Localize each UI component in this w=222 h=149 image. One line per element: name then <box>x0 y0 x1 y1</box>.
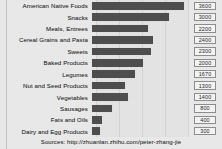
category-label: Snacks <box>0 14 92 21</box>
category-label: Vegetables <box>0 94 92 101</box>
bar-track <box>92 114 184 125</box>
category-label: Sweets <box>0 48 92 55</box>
category-label: Sausages <box>0 105 92 112</box>
bar-track <box>92 80 184 91</box>
category-label: Dairy and Egg Products <box>0 128 92 135</box>
category-label: Legumes <box>0 71 92 78</box>
category-label: Cereal Grains and Pasta <box>0 36 92 43</box>
bar-track <box>92 23 184 34</box>
source-caption: Sources: http://zhuanlan.zhihu.com/peter… <box>0 138 222 146</box>
bar-track <box>92 46 184 57</box>
bar-row: Cereal Grains and Pasta <box>0 34 222 45</box>
bar-row: Vegetables <box>0 91 222 102</box>
bar-rows-container: American Native Foods3600Snacks3000Meals… <box>0 0 222 137</box>
bar <box>92 116 102 124</box>
value-box: 800 <box>194 104 216 112</box>
value-box: 2200 <box>194 24 216 32</box>
bar <box>92 59 143 67</box>
bar <box>92 25 148 33</box>
bar-track <box>92 103 184 114</box>
bar-row: Legumes <box>0 69 222 80</box>
value-box: 300 <box>194 127 216 135</box>
category-label: Nut and Seed Products <box>0 82 92 89</box>
value-box: 3600 <box>194 2 216 10</box>
bar-track <box>92 91 184 102</box>
value-box: 2300 <box>194 47 216 55</box>
bar <box>92 105 112 113</box>
bar <box>92 93 128 101</box>
category-label: Meals, Entrees <box>0 25 92 32</box>
bar-track <box>92 126 184 137</box>
value-box: 3000 <box>194 13 216 21</box>
bar-row: Baked Products <box>0 57 222 68</box>
bar-row: American Native Foods <box>0 0 222 11</box>
bar <box>92 82 125 90</box>
bar-row: Fats and Oils <box>0 114 222 125</box>
value-box: 400 <box>194 116 216 124</box>
bar-row: Nut and Seed Products <box>0 80 222 91</box>
value-box: 2000 <box>194 59 216 67</box>
bar <box>92 13 169 21</box>
bar-chart-figure: American Native Foods3600Snacks3000Meals… <box>0 0 222 149</box>
bar-track <box>92 0 184 11</box>
bar <box>92 127 100 135</box>
bar-row: Sausages <box>0 103 222 114</box>
bar-track <box>92 34 184 45</box>
category-label: American Native Foods <box>0 2 92 9</box>
category-label: Baked Products <box>0 59 92 66</box>
value-box: 1300 <box>194 81 216 89</box>
bar <box>92 36 153 44</box>
bar-row: Sweets <box>0 46 222 57</box>
bar-track <box>92 11 184 22</box>
bar-row: Snacks <box>0 11 222 22</box>
bar-track <box>92 57 184 68</box>
value-box: 1670 <box>194 70 216 78</box>
bar <box>92 2 184 10</box>
bar-row: Dairy and Egg Products <box>0 126 222 137</box>
value-box: 1400 <box>194 93 216 101</box>
bar-track <box>92 69 184 80</box>
bar <box>92 48 151 56</box>
bar-row: Meals, Entrees <box>0 23 222 34</box>
bar <box>92 70 135 78</box>
value-box: 2400 <box>194 36 216 44</box>
category-label: Fats and Oils <box>0 116 92 123</box>
